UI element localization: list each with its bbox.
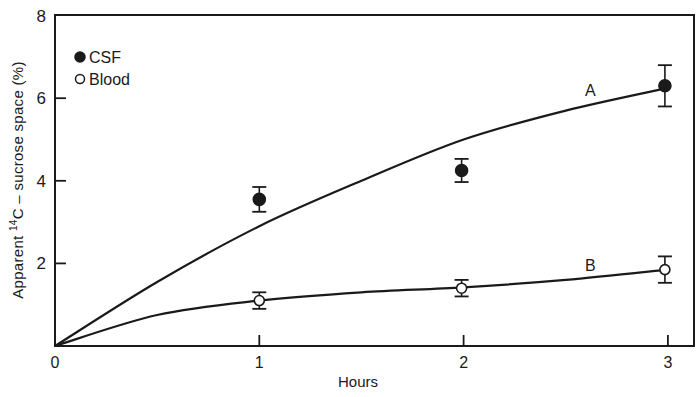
legend: CSFBlood — [75, 49, 130, 88]
y-tick-label: 8 — [37, 7, 46, 26]
axis-ticks: 01232468 — [37, 7, 673, 371]
y-tick-label: 2 — [37, 254, 46, 273]
curve-label-a: A — [585, 82, 596, 99]
curve-label-b: B — [585, 257, 596, 274]
y-axis-label-suffix: C – sucrose space (%) — [9, 61, 26, 219]
y-tick-label: 4 — [37, 172, 46, 191]
data-points — [252, 65, 672, 309]
filled-circle-marker — [659, 80, 671, 92]
x-axis-label: Hours — [338, 373, 378, 390]
x-tick-label: 3 — [663, 354, 672, 371]
x-tick-label: 2 — [459, 354, 468, 371]
y-axis-label-wrap: Apparent 14C – sucrose space (%) — [4, 14, 30, 346]
data-point-blood — [658, 256, 672, 282]
data-point-csf — [455, 159, 469, 182]
x-tick-label: 1 — [255, 354, 264, 371]
data-point-csf — [252, 187, 266, 212]
chart: 01232468 AB CSFBlood Hours — [0, 0, 700, 397]
legend-label-blood: Blood — [89, 71, 130, 88]
curve-b — [55, 270, 668, 346]
plot-border — [55, 15, 694, 346]
open-circle-marker — [660, 265, 670, 275]
y-axis-label: Apparent 14C – sucrose space (%) — [8, 61, 26, 299]
legend-label-csf: CSF — [89, 49, 121, 66]
filled-circle-marker — [253, 193, 265, 205]
y-axis-label-superscript: 14 — [8, 219, 19, 231]
plot-frame — [55, 15, 694, 346]
data-point-blood — [455, 280, 469, 297]
x-tick-label: 0 — [51, 354, 60, 371]
fitted-curves: AB — [55, 82, 668, 346]
open-circle-marker — [254, 296, 264, 306]
data-point-blood — [252, 292, 266, 309]
y-tick-label: 6 — [37, 89, 46, 108]
filled-circle-marker — [456, 164, 468, 176]
y-axis-label-prefix: Apparent — [9, 231, 26, 299]
legend-csf-icon — [75, 52, 85, 62]
curve-a — [55, 88, 668, 346]
data-point-csf — [658, 65, 672, 106]
open-circle-marker — [457, 283, 467, 293]
legend-blood-icon — [76, 75, 85, 84]
